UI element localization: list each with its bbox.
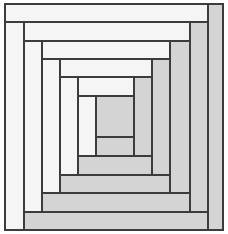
quilt-strip-r4-left — [60, 77, 78, 175]
quilt-strip-r1-bottom — [24, 212, 208, 230]
quilt-strip-r3-left — [42, 59, 60, 193]
quilt-strip-r2-right — [190, 22, 208, 212]
quilt-strip-r5-right — [134, 77, 152, 156]
quilt-strip-r5-top — [78, 77, 134, 96]
quilt-strip-r5-left — [78, 96, 96, 156]
quilt-strip-r3-top — [42, 41, 170, 59]
quilt-strip-r1-top — [5, 4, 208, 22]
quilt-strip-r4-top — [60, 59, 152, 77]
quilt-strip-r4-bottom — [78, 156, 152, 175]
quilt-strip-r3-right — [170, 41, 190, 193]
quilt-strip-center — [96, 96, 134, 137]
strip-layer — [5, 4, 223, 230]
quilt-strip-r2-top — [24, 22, 190, 41]
quilt-strip-r2-bottom — [42, 193, 190, 212]
quilt-strip-r3-bottom — [60, 175, 170, 193]
quilt-strip-r4-right — [152, 59, 170, 175]
quilt-strip-r2-left — [24, 41, 42, 212]
log-cabin-quilt-block — [0, 0, 228, 234]
quilt-strip-r1-right — [208, 4, 223, 230]
quilt-strip-r5-bottom — [96, 137, 134, 156]
quilt-strip-r1-left — [5, 22, 24, 230]
